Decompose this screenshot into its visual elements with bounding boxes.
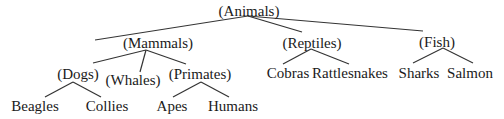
edge-primates-apes [173,82,201,97]
edge-primates-humans [201,82,229,97]
edge-mammals-primates [146,50,186,64]
edge-mammals-whales [140,50,146,72]
node-sharks: Sharks [399,66,440,81]
node-collies: Collies [86,99,129,114]
node-beagles: Beagles [11,99,58,114]
edge-dogs-beagles [45,82,73,97]
node-animals: (Animals) [219,4,280,19]
node-humans: Humans [208,99,258,114]
node-mammals: (Mammals) [123,36,193,51]
node-cobras: Cobras [267,66,310,81]
edge-fish-salmon [443,48,473,63]
edge-dogs-collies [73,82,101,97]
node-dogs: (Dogs) [57,67,99,82]
edge-mammals-dogs [93,50,146,63]
node-fish: (Fish) [419,35,455,50]
edge-fish-sharks [413,48,443,63]
node-primates: (Primates) [169,67,231,82]
node-reptiles: (Reptiles) [282,36,341,51]
edge-reptiles-cobras [283,49,311,64]
node-whales: (Whales) [106,73,161,88]
node-salmon: Salmon [447,66,493,81]
taxonomy-tree-diagram: (Animals) (Mammals) (Reptiles) (Fish) (D… [0,0,504,119]
edge-reptiles-rattlesnakes [311,49,349,64]
node-rattlesnakes: Rattlesnakes [312,66,388,81]
node-apes: Apes [157,99,188,114]
